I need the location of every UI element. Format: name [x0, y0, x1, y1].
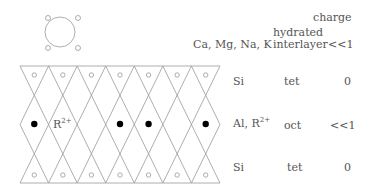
- row-bottom-charge: 0: [344, 161, 351, 174]
- interlayer-cations: Ca, Mg, Na, K: [193, 38, 272, 51]
- interlayer-charge: <<1: [328, 38, 353, 51]
- row-mid-site: oct: [284, 119, 301, 132]
- row-bottom-cation: Si: [233, 161, 244, 174]
- row-bottom-site: tet: [287, 161, 302, 174]
- row-mid-cation: Al, R2+: [233, 116, 270, 130]
- interlayer-label: interlayer: [273, 38, 328, 51]
- row-top-cation: Si: [233, 75, 244, 88]
- row-mid-charge: <<1: [330, 119, 355, 132]
- lattice-r2-label: R2+: [53, 117, 72, 131]
- interlayer-cation-icon: [45, 16, 81, 51]
- row-top-charge: 0: [344, 75, 351, 88]
- charge-header: charge: [313, 11, 352, 24]
- row-top-site: tet: [284, 75, 299, 88]
